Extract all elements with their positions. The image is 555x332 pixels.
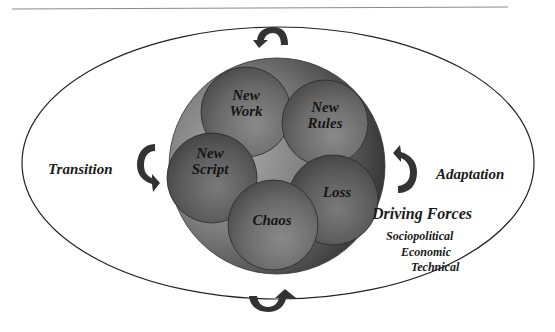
curved-arrow-left-icon xyxy=(137,144,160,192)
label-adaptation: Adaptation xyxy=(436,167,504,182)
driving-force-economic: Economic xyxy=(401,246,451,258)
top-rule xyxy=(12,7,508,9)
label-new-work: New Work xyxy=(206,88,286,120)
curved-arrow-top-icon xyxy=(253,27,288,48)
label-loss: Loss xyxy=(297,185,377,201)
driving-force-technical: Technical xyxy=(411,261,459,273)
driving-forces-title: Driving Forces xyxy=(372,206,472,222)
curved-arrow-right-icon xyxy=(393,145,417,193)
curved-arrow-bottom-icon xyxy=(249,289,296,312)
label-new-script: New Script xyxy=(170,146,250,178)
driving-force-sociopolitical: Sociopolitical xyxy=(386,230,453,242)
label-chaos: Chaos xyxy=(232,213,312,229)
label-transition: Transition xyxy=(48,162,112,177)
change-cycle-diagram: New Work New Rules New Script Loss Chaos… xyxy=(0,0,555,332)
label-new-rules: New Rules xyxy=(285,100,365,132)
